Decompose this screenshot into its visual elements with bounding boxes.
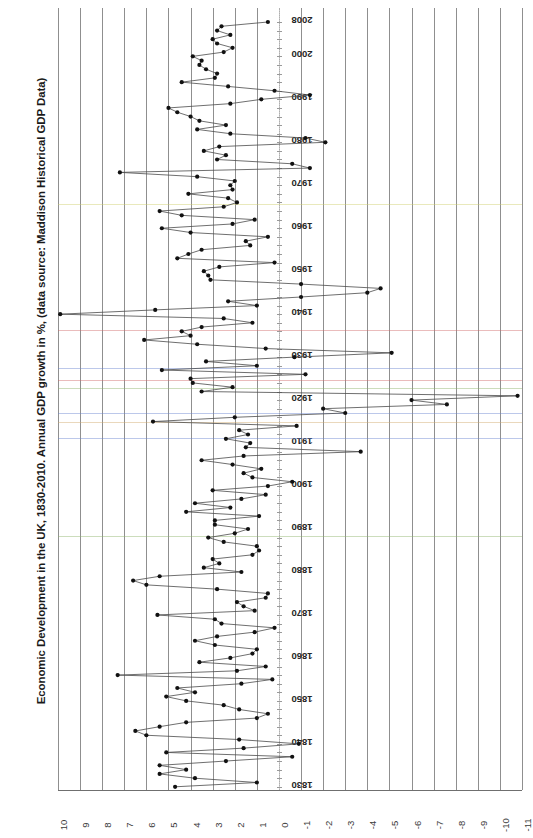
data-point bbox=[259, 97, 263, 101]
data-point bbox=[250, 475, 254, 479]
data-point bbox=[266, 20, 270, 24]
data-point bbox=[365, 291, 369, 295]
data-point bbox=[155, 613, 159, 617]
data-point bbox=[253, 218, 257, 222]
data-point bbox=[195, 127, 199, 131]
data-point bbox=[193, 501, 197, 505]
value-tick-2: 2 bbox=[235, 805, 246, 838]
data-point bbox=[222, 50, 226, 54]
data-point bbox=[233, 531, 237, 535]
value-tick-3: 3 bbox=[213, 805, 224, 838]
data-point bbox=[257, 514, 261, 518]
data-point bbox=[343, 411, 347, 415]
value-tick-neg8: -8 bbox=[456, 805, 467, 838]
data-point bbox=[188, 230, 192, 234]
data-point bbox=[200, 248, 204, 252]
data-point bbox=[158, 574, 162, 578]
data-point bbox=[290, 755, 294, 759]
data-point bbox=[228, 102, 232, 106]
data-point bbox=[409, 398, 413, 402]
data-point bbox=[222, 316, 226, 320]
data-point bbox=[303, 136, 307, 140]
data-point bbox=[222, 703, 226, 707]
value-tick-neg4: -4 bbox=[367, 805, 378, 838]
data-point bbox=[204, 359, 208, 363]
value-tick-5: 5 bbox=[168, 805, 179, 838]
data-point bbox=[230, 46, 234, 50]
data-point bbox=[224, 759, 228, 763]
data-point bbox=[255, 647, 259, 651]
data-point bbox=[239, 570, 243, 574]
data-point bbox=[158, 725, 162, 729]
data-point bbox=[272, 89, 276, 93]
data-point bbox=[219, 621, 223, 625]
data-point bbox=[515, 394, 519, 398]
data-point bbox=[253, 630, 257, 634]
data-point bbox=[239, 497, 243, 501]
data-point bbox=[235, 669, 239, 673]
data-point bbox=[250, 321, 254, 325]
data-point bbox=[202, 269, 206, 273]
data-point bbox=[158, 772, 162, 776]
data-point bbox=[226, 196, 230, 200]
chart-title: Economic Development in the UK, 1830-201… bbox=[35, 6, 47, 776]
data-point bbox=[193, 690, 197, 694]
data-point bbox=[151, 419, 155, 423]
data-point bbox=[250, 652, 254, 656]
data-point bbox=[188, 114, 192, 118]
data-point bbox=[206, 536, 210, 540]
value-tick-8: 8 bbox=[102, 805, 113, 838]
data-point bbox=[184, 720, 188, 724]
data-point bbox=[213, 518, 217, 522]
data-point bbox=[175, 686, 179, 690]
data-point bbox=[164, 750, 168, 754]
value-tick-neg6: -6 bbox=[412, 805, 423, 838]
value-tick-neg11: -11 bbox=[522, 805, 533, 838]
data-point bbox=[180, 329, 184, 333]
data-point bbox=[191, 381, 195, 385]
data-point bbox=[246, 432, 250, 436]
data-point bbox=[158, 209, 162, 213]
data-point bbox=[257, 548, 261, 552]
data-point bbox=[193, 639, 197, 643]
data-point bbox=[186, 252, 190, 256]
data-point bbox=[184, 510, 188, 514]
data-point bbox=[233, 415, 237, 419]
value-tick-neg7: -7 bbox=[434, 805, 445, 838]
data-point bbox=[217, 265, 221, 269]
data-point bbox=[200, 59, 204, 63]
data-point bbox=[255, 716, 259, 720]
data-point bbox=[202, 149, 206, 153]
data-point bbox=[321, 407, 325, 411]
value-tick-4: 4 bbox=[191, 805, 202, 838]
data-point bbox=[215, 41, 219, 45]
data-point bbox=[266, 712, 270, 716]
data-point bbox=[230, 222, 234, 226]
data-point bbox=[290, 162, 294, 166]
data-point bbox=[222, 205, 226, 209]
data-point bbox=[197, 119, 201, 123]
data-point bbox=[445, 402, 449, 406]
data-point bbox=[308, 93, 312, 97]
data-point bbox=[266, 484, 270, 488]
data-point bbox=[299, 295, 303, 299]
data-point bbox=[272, 261, 276, 265]
data-point bbox=[213, 643, 217, 647]
data-point bbox=[188, 377, 192, 381]
data-point bbox=[160, 226, 164, 230]
data-point bbox=[264, 596, 268, 600]
data-point bbox=[244, 445, 248, 449]
value-tick-neg9: -9 bbox=[478, 805, 489, 838]
data-point bbox=[230, 187, 234, 191]
data-point bbox=[144, 583, 148, 587]
data-point bbox=[144, 733, 148, 737]
data-point bbox=[200, 325, 204, 329]
data-point bbox=[213, 523, 217, 527]
data-point bbox=[242, 746, 246, 750]
gridline-neg11 bbox=[522, 8, 523, 790]
data-point bbox=[133, 729, 137, 733]
data-point bbox=[237, 707, 241, 711]
data-point bbox=[266, 235, 270, 239]
data-point bbox=[184, 699, 188, 703]
data-point bbox=[308, 166, 312, 170]
